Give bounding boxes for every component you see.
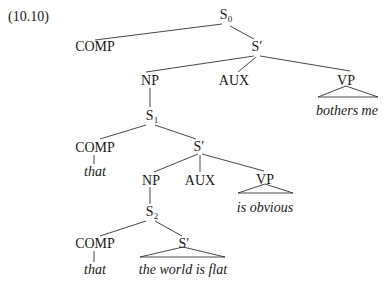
node-s2-sub: 2: [154, 211, 159, 221]
node-comp-low: COMP: [75, 237, 115, 251]
node-np-mid: NP: [142, 174, 160, 188]
node-sbar-low: S′: [179, 237, 190, 251]
node-s1-sub: 1: [154, 115, 159, 125]
edge-s2-comp: [100, 221, 146, 236]
edge-s0-comp: [95, 24, 222, 40]
edge-s2-sbar: [155, 221, 182, 236]
node-s2: S2: [146, 205, 158, 219]
node-s1-cat: S: [146, 108, 154, 123]
edge-s0-sbar: [230, 26, 254, 39]
node-sbar-top: S′: [252, 40, 263, 54]
edge-sbar-np: [146, 56, 254, 72]
edge-sbar-vp: [260, 56, 350, 71]
edge-sbar-mid-np: [154, 154, 198, 172]
example-number: (10.10): [8, 10, 49, 24]
edge-s1-sbar: [155, 125, 196, 139]
comp-mid-terminal: that: [84, 165, 106, 179]
edge-s1-comp: [100, 125, 146, 139]
edge-sbar-mid-vp: [202, 154, 264, 171]
node-np-top: NP: [141, 74, 159, 88]
node-comp-top: COMP: [75, 40, 115, 54]
node-aux-mid: AUX: [185, 174, 215, 188]
node-comp-mid: COMP: [75, 141, 115, 155]
node-vp-top: VP: [337, 74, 355, 88]
node-vp-mid: VP: [256, 173, 274, 187]
node-s1: S1: [146, 109, 158, 123]
comp-low-terminal: that: [84, 263, 106, 277]
node-s0-cat: S: [220, 7, 228, 22]
node-s0-sub: 0: [228, 14, 233, 24]
node-s2-cat: S: [146, 204, 154, 219]
sbar-low-terminal: the world is flat: [139, 263, 227, 277]
vp-top-terminal: bothers me: [316, 104, 378, 118]
edge-sbar-aux: [238, 57, 256, 72]
node-aux-top: AUX: [219, 74, 249, 88]
node-sbar-mid: S′: [194, 140, 205, 154]
node-s0: S0: [220, 8, 232, 22]
vp-mid-terminal: is obvious: [237, 201, 293, 215]
